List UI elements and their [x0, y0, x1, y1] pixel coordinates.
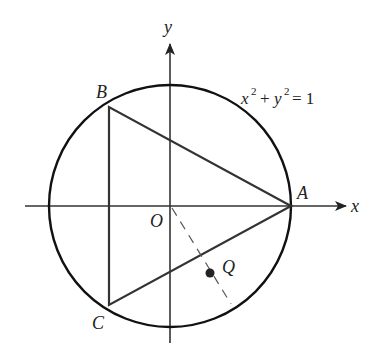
svg-text:2: 2 [251, 85, 257, 97]
label-point-a: A [296, 183, 309, 203]
circle-equation: x 2 + y 2 = 1 [240, 85, 314, 108]
label-point-c: C [92, 313, 105, 333]
label-point-b: B [96, 82, 107, 102]
svg-text:+: + [260, 89, 270, 108]
label-x-axis: x [350, 196, 359, 216]
svg-text:2: 2 [284, 85, 290, 97]
svg-text:y: y [272, 89, 282, 108]
unit-circle-diagram: y x O A B C Q x 2 + y 2 = 1 [0, 0, 379, 355]
dashed-line-oq [172, 208, 231, 304]
label-y-axis: y [162, 17, 172, 37]
svg-text:x: x [240, 89, 249, 108]
point-q-dot [206, 269, 215, 278]
svg-text:= 1: = 1 [292, 89, 314, 108]
label-origin: O [150, 211, 163, 231]
label-point-q: Q [222, 257, 235, 277]
